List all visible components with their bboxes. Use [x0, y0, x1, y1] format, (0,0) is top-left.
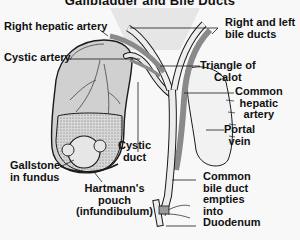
- sphincter-of-oddi: [159, 206, 169, 214]
- label-common-bile-duct: Common bile duct empties into Duodenum: [203, 171, 260, 229]
- label-cystic-duct: Cystic duct: [118, 140, 151, 163]
- label-portal-vein: Portal vein: [224, 124, 255, 147]
- label-gallstone-in-fundus: Gallstone in fundus: [10, 160, 60, 183]
- label-common-hepatic-artery: Common hepatic artery: [235, 86, 283, 121]
- leader-hartmanns-pouch: [94, 172, 102, 182]
- label-hartmanns-pouch: Hartmann's pouch (infundibulum): [76, 183, 153, 218]
- label-cystic-artery: Cystic artery: [4, 52, 71, 64]
- label-right-hepatic-artery: Right hepatic artery: [4, 21, 107, 33]
- duodenum-folds: [168, 205, 190, 218]
- small-stone-right: [94, 140, 106, 152]
- label-right-left-bile-ducts: Right and left bile ducts: [225, 17, 295, 40]
- small-stone-left: [62, 144, 74, 156]
- label-triangle-of-calot: Triangle of Calot: [200, 60, 256, 83]
- anatomy-diagram: Gallbladder and Bile Ducts: [0, 0, 300, 240]
